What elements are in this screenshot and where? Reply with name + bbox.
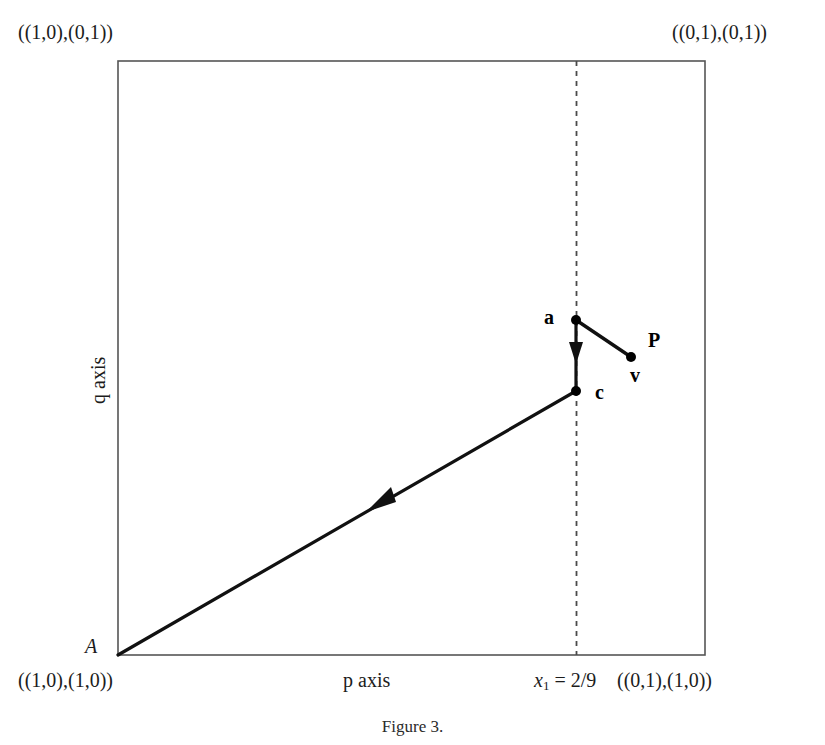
x1-variable: x: [534, 669, 543, 691]
x1-equals: =: [549, 669, 570, 691]
region-label-P: P: [648, 330, 660, 350]
point-c-dot: [571, 386, 581, 396]
corner-label-bottom-left: ((1,0),(1,0)): [18, 670, 113, 690]
corner-label-bottom-right: ((0,1),(1,0)): [617, 670, 712, 690]
corner-label-top-right: ((0,1),(0,1)): [672, 22, 767, 42]
figure-3-container: ((1,0),(0,1)) ((0,1),(0,1)) ((1,0),(1,0)…: [0, 0, 825, 745]
x-axis-label: p axis: [343, 670, 390, 690]
point-label-v: v: [630, 365, 640, 385]
y-axis-label: q axis: [88, 357, 108, 404]
point-label-a: a: [544, 307, 554, 327]
figure-caption: Figure 3.: [0, 718, 825, 735]
figure-plot: [0, 0, 825, 745]
point-label-c: c: [595, 382, 604, 402]
x1-value: 2/9: [571, 669, 597, 691]
x1-tick-label: x1 = 2/9: [534, 670, 596, 692]
corner-label-top-left: ((1,0),(0,1)): [18, 22, 113, 42]
point-a-dot: [571, 315, 581, 325]
point-v-dot: [626, 352, 636, 362]
vertex-label-A: A: [85, 636, 97, 656]
plot-border: [118, 61, 705, 655]
